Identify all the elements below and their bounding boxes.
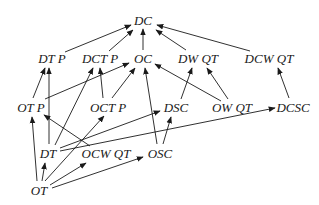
edge-dt-to-dsc bbox=[60, 111, 160, 148]
edge-ot-to-osc bbox=[52, 157, 143, 188]
edge-ot-to-dt bbox=[42, 163, 45, 181]
node-oc: OC bbox=[134, 52, 152, 65]
edge-otp-to-oc bbox=[45, 63, 129, 99]
node-octp: OCT P bbox=[90, 101, 126, 114]
edge-dcsc-to-dcwqt bbox=[278, 68, 289, 98]
edge-ot-to-ocwqt bbox=[50, 163, 86, 185]
edge-layer bbox=[0, 0, 319, 205]
edge-ocwqt-to-otp bbox=[44, 115, 90, 146]
node-dcsc: DCSC bbox=[276, 101, 309, 114]
node-dwqt: DW QT bbox=[178, 52, 218, 65]
edge-owqt-to-oc bbox=[155, 64, 221, 101]
edge-dctp-to-dc bbox=[109, 30, 133, 51]
node-dtp: DT P bbox=[38, 52, 66, 65]
edge-dtp-to-dc bbox=[65, 25, 131, 52]
node-dctp: DCT P bbox=[82, 52, 118, 65]
edge-octp-to-dctp bbox=[100, 68, 103, 98]
node-ot: OT bbox=[31, 184, 48, 197]
node-owqt: OW QT bbox=[212, 101, 252, 114]
diagram-canvas: DCDT PDCT POCDW QTDCW QTOT POCT PDSCOW Q… bbox=[0, 0, 319, 205]
node-osc: OSC bbox=[148, 147, 173, 160]
node-dt: DT bbox=[40, 147, 57, 160]
node-dc: DC bbox=[134, 14, 152, 27]
edge-otp-to-dtp bbox=[33, 68, 45, 98]
node-otp: OT P bbox=[17, 101, 45, 114]
node-ocwqt: OCW QT bbox=[82, 147, 131, 160]
edge-ot-to-otp bbox=[32, 117, 37, 181]
edge-dt-to-dctp bbox=[55, 68, 93, 145]
edge-dcwqt-to-dc bbox=[157, 25, 250, 51]
node-dcwqt: DCW QT bbox=[245, 52, 294, 65]
edge-dwqt-to-dc bbox=[156, 30, 186, 50]
node-dsc: DSC bbox=[164, 101, 189, 114]
edge-octp-to-oc bbox=[112, 68, 135, 98]
edge-owqt-to-dwqt bbox=[207, 68, 228, 99]
